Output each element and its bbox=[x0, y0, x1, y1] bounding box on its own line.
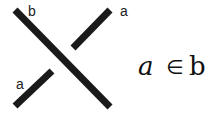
crossing-diagram: b a a a ∈ b bbox=[0, 0, 213, 114]
formula-left: a bbox=[138, 51, 154, 81]
label-a-top: a bbox=[120, 3, 128, 19]
strand-a-upper-segment bbox=[73, 10, 110, 48]
label-b-top: b bbox=[28, 3, 36, 19]
formula-element-of-symbol: ∈ bbox=[166, 55, 183, 79]
formula-right: b bbox=[189, 51, 206, 81]
label-a-bottom: a bbox=[16, 76, 24, 92]
